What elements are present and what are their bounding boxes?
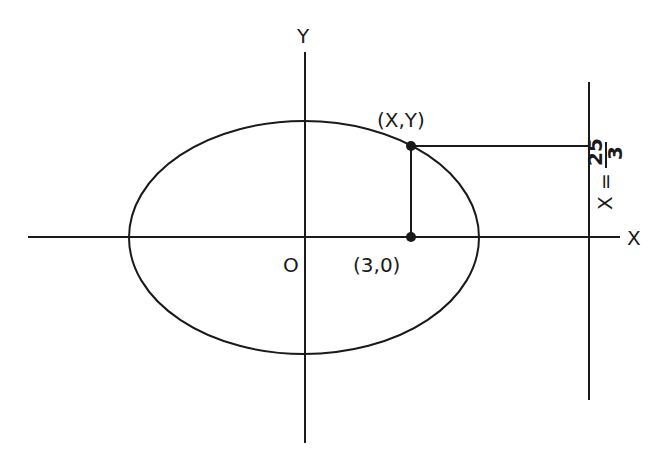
focus-label: (3,0)	[353, 253, 400, 277]
ellipse-diagram: Y X O (X,Y) (3,0) X = 25 3	[0, 0, 667, 465]
origin-label: O	[283, 253, 299, 277]
directrix-lhs: X =	[593, 173, 617, 210]
focus-dot	[406, 232, 416, 242]
point-xy-label: (X,Y)	[377, 108, 425, 132]
x-axis-label: X	[627, 226, 641, 250]
point-xy-dot	[406, 141, 416, 151]
directrix-denominator: 3	[603, 146, 627, 160]
y-axis-label: Y	[296, 24, 310, 48]
